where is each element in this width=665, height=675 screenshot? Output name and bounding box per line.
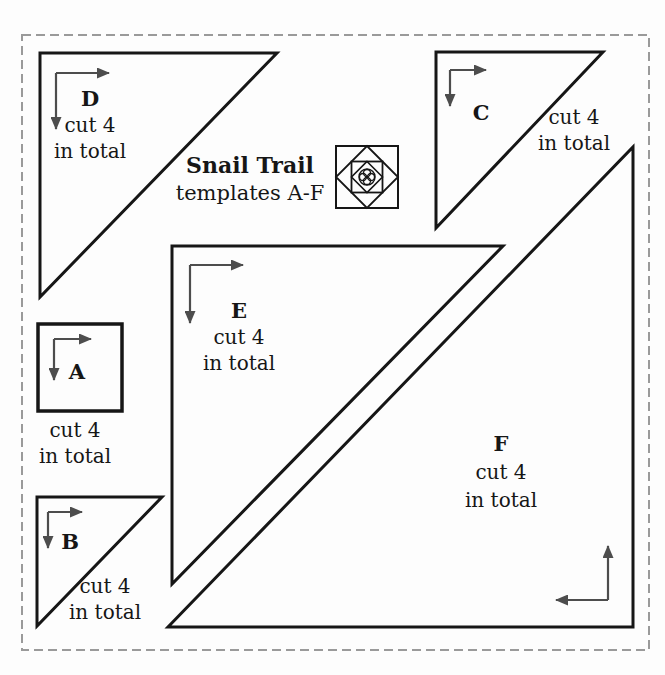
template-b-cut-line1: cut 4 (59, 573, 151, 599)
template-d-label-block: D cut 4 in total (35, 86, 145, 164)
template-a-cut-block: cut 4 in total (29, 417, 121, 469)
template-e-cut-line2: in total (189, 350, 289, 376)
template-c-cut-line1: cut 4 (528, 104, 620, 130)
page-title: Snail Trail templates A-F (160, 151, 340, 207)
subtitle-line: templates A-F (160, 179, 340, 207)
template-a-letter: A (52, 359, 102, 385)
template-b-letter: B (45, 529, 95, 555)
pattern-page: Snail Trail templates A-F D cut 4 in tot… (0, 0, 665, 675)
template-e-letter: E (189, 298, 289, 324)
template-d-letter: D (35, 86, 145, 112)
template-d-cut-line2: in total (35, 138, 145, 164)
template-c-label-block: C (456, 100, 506, 126)
template-c-cut-block: cut 4 in total (528, 104, 620, 156)
template-e-label-block: E cut 4 in total (189, 298, 289, 376)
template-f-cut-line2: in total (451, 486, 551, 514)
template-a-cut-line2: in total (29, 443, 121, 469)
template-b-cut-line2: in total (59, 599, 151, 625)
title-line: Snail Trail (160, 151, 340, 179)
template-a-label-block: A (52, 359, 102, 385)
template-f-letter: F (451, 430, 551, 458)
template-b-label-block: B (45, 529, 95, 555)
template-a-cut-line1: cut 4 (29, 417, 121, 443)
template-d-cut-line1: cut 4 (35, 112, 145, 138)
template-b-cut-block: cut 4 in total (59, 573, 151, 625)
template-f-cut-line1: cut 4 (451, 458, 551, 486)
template-f-label-block: F cut 4 in total (451, 430, 551, 514)
template-e-cut-line1: cut 4 (189, 324, 289, 350)
template-c-cut-line2: in total (528, 130, 620, 156)
template-c-letter: C (456, 100, 506, 126)
snail-trail-block-icon (336, 146, 398, 208)
